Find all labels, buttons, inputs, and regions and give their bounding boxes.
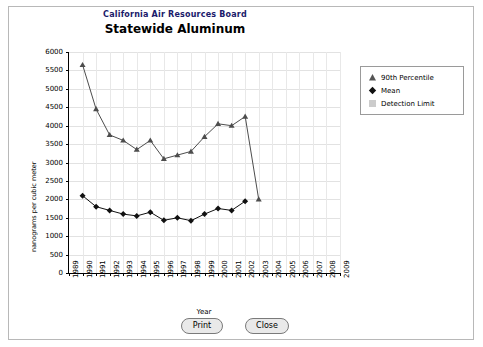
x-tick-mark [164,273,165,276]
x-tick-mark [299,273,300,276]
data-point-diamond [242,198,248,204]
x-tick-label: 2009 [343,260,351,278]
x-tick-mark [245,273,246,276]
series-line [83,196,246,221]
plot-area: 0500100015002000250030003500400045005000… [68,52,340,274]
x-tick-mark [83,273,84,276]
data-point-diamond [134,213,140,219]
x-tick-mark [326,273,327,276]
data-point-diamond [120,211,126,217]
x-tick-mark [137,273,138,276]
data-point-diamond [107,207,113,213]
data-point-triangle [147,137,153,142]
x-tick-mark [191,273,192,276]
data-point-triangle [80,62,86,67]
x-tick-mark [286,273,287,276]
data-point-diamond [147,209,153,215]
triangle-icon [365,73,379,82]
y-tick-label: 2000 [29,195,63,203]
data-point-triangle [256,196,262,201]
y-tick-label: 3500 [29,140,63,148]
print-button[interactable]: Print [181,318,223,334]
data-point-triangle [242,113,248,118]
chart-subtitle: California Air Resources Board [0,10,350,19]
square-icon [365,99,379,108]
y-tick-label: 6000 [29,48,63,56]
data-point-diamond [229,207,235,213]
legend-item-2: Detection Limit [365,97,459,110]
legend-label-2: Detection Limit [379,100,435,108]
data-point-triangle [93,106,99,111]
y-tick-label: 1500 [29,214,63,222]
x-tick-mark [205,273,206,276]
y-tick-label: 4000 [29,122,63,130]
legend-label-0: 90th Percentile [379,74,434,82]
data-point-diamond [202,211,208,217]
series-layer [69,52,340,273]
x-tick-mark [313,273,314,276]
x-tick-mark [218,273,219,276]
x-tick-mark [110,273,111,276]
data-point-diamond [188,218,194,224]
legend-item-0: 90th Percentile [365,71,459,84]
x-tick-mark [96,273,97,276]
x-axis-title: Year [68,308,340,316]
y-tick-label: 0 [29,269,63,277]
y-tick-label: 5500 [29,66,63,74]
y-tick-label: 1000 [29,232,63,240]
x-tick-mark [69,273,70,276]
legend-label-1: Mean [379,87,400,95]
data-point-diamond [215,206,221,212]
data-point-diamond [174,215,180,221]
chart-title: Statewide Aluminum [0,22,350,36]
diamond-icon [365,86,379,95]
y-tick-label: 500 [29,251,63,259]
data-point-diamond [161,217,167,223]
chart-legend: 90th Percentile Mean Detection Limit [360,66,464,115]
legend-item-1: Mean [365,84,459,97]
x-tick-mark [340,273,341,276]
x-tick-mark [177,273,178,276]
data-point-triangle [134,147,140,152]
close-button[interactable]: Close [245,318,289,334]
series-line [83,65,259,199]
x-tick-mark [259,273,260,276]
x-tick-mark [232,273,233,276]
x-tick-mark [272,273,273,276]
gridline-vertical [340,52,341,273]
data-point-triangle [215,121,221,126]
data-point-triangle [107,132,113,137]
x-tick-mark [123,273,124,276]
chart-window: California Air Resources Board Statewide… [0,0,483,347]
y-tick-label: 3000 [29,159,63,167]
y-tick-label: 2500 [29,177,63,185]
y-tick-label: 4500 [29,103,63,111]
y-tick-label: 5000 [29,85,63,93]
x-tick-mark [150,273,151,276]
